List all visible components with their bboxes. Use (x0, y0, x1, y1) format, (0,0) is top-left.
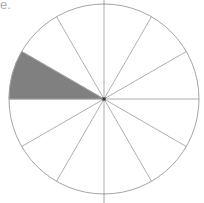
pie-slice-shaded[interactable] (9, 52, 104, 100)
figure-root: e. (0, 0, 204, 203)
pie-slices-group (9, 52, 104, 100)
center-dot (102, 97, 105, 100)
pie-chart-svg (0, 0, 204, 203)
